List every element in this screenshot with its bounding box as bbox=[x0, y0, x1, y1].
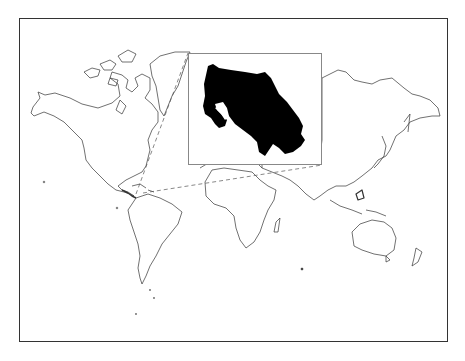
greenland-outline bbox=[150, 52, 190, 116]
africa-outline bbox=[205, 168, 276, 248]
north-america-outline bbox=[31, 72, 158, 196]
connector-line-top bbox=[136, 53, 188, 194]
costa-rica-silhouette bbox=[189, 54, 323, 166]
australia-outline bbox=[352, 220, 396, 256]
south-america-outline bbox=[128, 194, 182, 284]
inset-map-costa-rica: Costa Rica (enlarged) bbox=[188, 53, 322, 165]
